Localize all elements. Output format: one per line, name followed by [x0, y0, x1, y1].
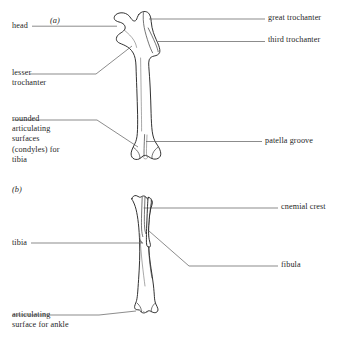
intercondylar-notch-detail — [143, 157, 148, 159]
femur-bone-group — [114, 11, 161, 159]
label-condyles: rounded articulating surfaces (condyles)… — [12, 114, 60, 165]
fibula-outline — [146, 198, 151, 248]
label-tibia: tibia — [12, 238, 27, 248]
label-ankle-surface: articulating surface for ankle — [12, 310, 69, 330]
label-head: head — [12, 21, 28, 31]
label-lesser-trochanter: lesser trochanter — [12, 68, 46, 88]
femur-outline — [114, 11, 161, 159]
tibia-outline — [132, 196, 158, 313]
leader-fibula — [149, 231, 278, 266]
label-cnemial-crest: cnemial crest — [281, 202, 326, 212]
label-third-trochanter: third trochanter — [268, 35, 320, 45]
tibia-fibula-bone-group — [132, 196, 158, 313]
anatomical-figure: (a) head great trochanter third trochant… — [0, 0, 352, 340]
panel-a-tag: (a) — [50, 16, 60, 25]
label-great-trochanter: great trochanter — [268, 13, 321, 23]
panel-b-tag: (b) — [12, 185, 22, 194]
diagram-canvas — [0, 0, 352, 340]
label-patella-groove: patella groove — [265, 136, 313, 146]
label-fibula: fibula — [281, 260, 301, 270]
